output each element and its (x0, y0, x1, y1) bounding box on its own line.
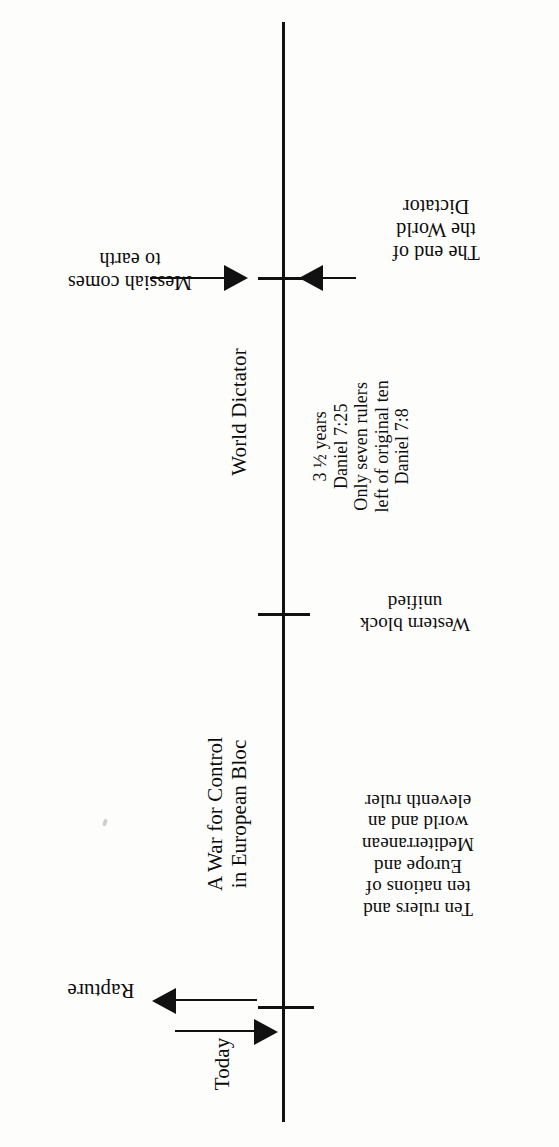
label-war-for-control-in-european-bloc: A War for Control in European Bloc (204, 704, 252, 924)
label-rapture: Rapture (46, 978, 156, 1002)
label-daniel-references: 3 ½ years Daniel 7:25 Only seven rulers … (310, 351, 413, 541)
label-ten-rulers-ten-nations: Ten rulers and ten nations of Europe and… (320, 790, 516, 920)
scan-artifact-speck (102, 819, 108, 827)
arrow-left-icon (299, 265, 323, 291)
tick-western-block-unified (258, 613, 310, 616)
arrow-end-of-world-shaft (322, 277, 356, 279)
tick-today (258, 1006, 314, 1009)
arrow-right-icon (254, 1019, 278, 1045)
label-western-block-unified: Western block unified (330, 592, 500, 635)
timeline-axis (282, 22, 285, 1122)
timeline-diagram: Messiah comes to earth The end of the Wo… (0, 0, 559, 1147)
label-messiah-comes-to-earth: Messiah comes to earth (24, 248, 236, 294)
label-today: Today (211, 1009, 235, 1119)
label-end-of-the-world-dictator: The end of the World Dictator (346, 196, 526, 264)
label-world-dictator: World Dictator (228, 312, 252, 512)
arrow-rapture-outbound-shaft (175, 999, 257, 1001)
